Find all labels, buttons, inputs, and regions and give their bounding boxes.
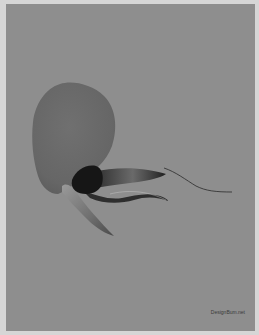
image-frame: DesignBum.net <box>0 0 259 335</box>
upper-arm-shape <box>92 168 166 188</box>
tendril-shape <box>164 168 232 192</box>
watermark-text: DesignBum.net <box>211 309 245 315</box>
abstract-artwork <box>6 4 255 331</box>
artwork-canvas: DesignBum.net <box>6 4 255 331</box>
